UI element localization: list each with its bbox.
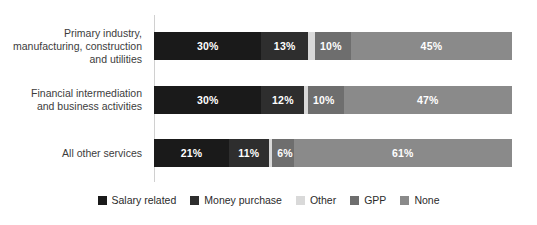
segment-value-label: 61%: [392, 147, 414, 159]
category-label: Financial intermediation and business ac…: [0, 87, 148, 113]
segment-value-label: 13%: [274, 40, 296, 52]
segment-value-label: 11%: [238, 147, 259, 159]
category-label: All other services: [0, 147, 148, 160]
legend-item-other[interactable]: Other: [296, 194, 336, 206]
legend-label: None: [414, 194, 439, 206]
legend-label: GPP: [364, 194, 386, 206]
segment-value-label: 12%: [272, 94, 294, 106]
bar-segment-other[interactable]: [308, 32, 315, 60]
category-label: Primary industry, manufacturing, constru…: [0, 27, 148, 66]
legend-swatch-icon: [190, 196, 199, 205]
bar-segment-salary-related[interactable]: 30%: [154, 86, 261, 114]
legend-swatch-icon: [296, 196, 305, 205]
segment-value-label: 30%: [197, 40, 219, 52]
bar-segment-gpp[interactable]: 10%: [308, 86, 344, 114]
bar-segment-none[interactable]: 45%: [351, 32, 512, 60]
legend-item-salary-related[interactable]: Salary related: [98, 194, 177, 206]
legend-label: Money purchase: [204, 194, 282, 206]
bar-segment-gpp[interactable]: 6%: [272, 139, 293, 167]
bar-row: Financial intermediation and business ac…: [0, 80, 537, 120]
chart-legend: Salary related Money purchase Other GPP …: [0, 188, 537, 212]
legend-swatch-icon: [400, 196, 409, 205]
bar-segment-none[interactable]: 61%: [294, 139, 512, 167]
plot-area: Primary industry, manufacturing, constru…: [0, 0, 537, 186]
legend-item-gpp[interactable]: GPP: [350, 194, 386, 206]
bar-segment-money-purchase[interactable]: 11%: [229, 139, 268, 167]
bar-rows: Primary industry, manufacturing, constru…: [0, 0, 537, 186]
stacked-bar: 30% 12% 10% 47%: [154, 86, 512, 114]
segment-value-label: 6%: [272, 147, 293, 159]
segment-value-label: 45%: [421, 40, 443, 52]
bar-segment-gpp[interactable]: 10%: [315, 32, 351, 60]
stacked-bar-chart: Primary industry, manufacturing, constru…: [0, 0, 537, 225]
legend-swatch-icon: [350, 196, 359, 205]
bar-segment-salary-related[interactable]: 21%: [154, 139, 229, 167]
segment-value-label: 47%: [417, 94, 439, 106]
stacked-bar: 30% 13% 10% 45%: [154, 32, 512, 60]
legend-swatch-icon: [98, 196, 107, 205]
stacked-bar: 21% 11% 6% 61%: [154, 139, 512, 167]
bar-segment-money-purchase[interactable]: 13%: [261, 32, 308, 60]
segment-value-label: 21%: [181, 147, 203, 159]
bar-row: Primary industry, manufacturing, constru…: [0, 22, 537, 70]
bar-segment-none[interactable]: 47%: [344, 86, 512, 114]
legend-item-none[interactable]: None: [400, 194, 439, 206]
segment-value-label: 10%: [315, 40, 351, 52]
bar-segment-salary-related[interactable]: 30%: [154, 32, 261, 60]
segment-value-label: 30%: [197, 94, 219, 106]
bar-segment-money-purchase[interactable]: 12%: [261, 86, 304, 114]
legend-label: Salary related: [112, 194, 177, 206]
segment-value-label: 10%: [308, 94, 344, 106]
legend-item-money-purchase[interactable]: Money purchase: [190, 194, 282, 206]
legend-label: Other: [310, 194, 336, 206]
bar-row: All other services 21% 11% 6% 6: [0, 133, 537, 173]
